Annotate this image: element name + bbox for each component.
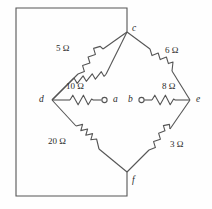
resistor-20-ohm-zigzag xyxy=(76,124,99,149)
circuit-diagram: c d e f a b 5 Ω 6 Ω 20 Ω 3 Ω 10 Ω 8 Ω xyxy=(0,0,212,209)
terminal-a xyxy=(102,97,107,102)
resistor-label-5-ohm: 5 Ω xyxy=(56,44,69,53)
node-label-d: d xyxy=(39,95,44,105)
resistor-label-6-ohm: 6 Ω xyxy=(165,46,178,55)
circuit-schematic-canvas xyxy=(0,0,212,209)
node-label-f: f xyxy=(132,176,135,186)
node-label-e: e xyxy=(196,95,200,105)
resistor-3-ohm-zigzag xyxy=(149,124,170,150)
terminal-b xyxy=(139,97,144,102)
resistor-label-8-ohm: 8 Ω xyxy=(162,82,175,91)
node-label-a: a xyxy=(113,95,118,105)
resistor-label-3-ohm: 3 Ω xyxy=(170,140,183,149)
outer-loop-wire xyxy=(16,8,127,196)
resistor-10-ohm-zigzag xyxy=(70,95,93,105)
resistor-8-ohm-zigzag xyxy=(152,95,175,105)
node-label-b: b xyxy=(128,95,133,105)
resistor-5-ohm-zigzag xyxy=(78,46,103,74)
resistor-label-20-ohm: 20 Ω xyxy=(48,137,66,146)
branch-f-e-wire xyxy=(127,100,190,172)
branch-c-e-wire xyxy=(127,32,190,100)
node-label-c: c xyxy=(132,24,136,34)
resistor-label-10-ohm: 10 Ω xyxy=(66,82,84,91)
